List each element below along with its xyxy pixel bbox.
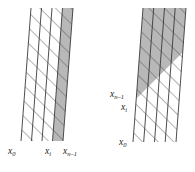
- right-label-xn1: xn–1: [110, 90, 124, 100]
- right-label-x0: x0: [119, 138, 126, 148]
- left-label-xi: xi: [45, 147, 51, 157]
- left-label-x0: x0: [8, 147, 15, 157]
- right-label-xi: xi: [121, 103, 127, 113]
- left-label-xi-sub: i: [49, 150, 51, 157]
- diagram-canvas: [0, 0, 195, 172]
- right-label-xn1-sub: n–1: [114, 93, 124, 100]
- left-label-xn1-sub: n–1: [67, 150, 77, 157]
- left-label-x0-sub: 0: [12, 150, 15, 157]
- left-label-xn1: xn–1: [63, 147, 77, 157]
- figure-container: x0 xi xn–1 xn–1 xi x0: [0, 0, 195, 172]
- right-label-xi-sub: i: [125, 106, 127, 113]
- right-label-x0-sub: 0: [123, 141, 126, 148]
